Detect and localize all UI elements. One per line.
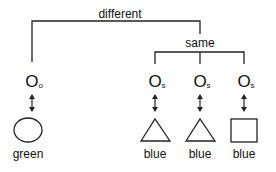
object-node-s: Os bbox=[148, 73, 165, 95]
object-subscript: s bbox=[162, 81, 166, 90]
double-arrow-icon bbox=[241, 94, 247, 112]
object-node-s: Os bbox=[237, 73, 254, 95]
square-shape-icon bbox=[231, 119, 257, 142]
object-subscript: s bbox=[207, 81, 211, 90]
object-subscript: s bbox=[251, 81, 255, 90]
triangle-shape-icon bbox=[186, 119, 215, 141]
color-label: green bbox=[13, 147, 44, 161]
object-symbol: O bbox=[237, 72, 250, 91]
double-arrow-icon bbox=[197, 94, 203, 112]
color-label: blue bbox=[189, 147, 212, 161]
object-symbol: O bbox=[25, 72, 38, 91]
double-arrow-icon bbox=[152, 94, 158, 112]
same-label: same bbox=[185, 36, 214, 50]
different-bracket bbox=[32, 21, 200, 62]
object-subscript: o bbox=[38, 81, 42, 90]
different-label: different bbox=[98, 7, 141, 21]
color-label: blue bbox=[233, 147, 256, 161]
object-symbol: O bbox=[193, 72, 206, 91]
triangle-shape-icon bbox=[141, 119, 170, 141]
object-symbol: O bbox=[148, 72, 161, 91]
double-arrow-icon bbox=[29, 94, 35, 112]
circle-shape-icon bbox=[14, 118, 42, 142]
color-label: blue bbox=[144, 147, 167, 161]
object-node-s: Os bbox=[193, 73, 210, 95]
object-node-o: Oo bbox=[25, 73, 43, 95]
